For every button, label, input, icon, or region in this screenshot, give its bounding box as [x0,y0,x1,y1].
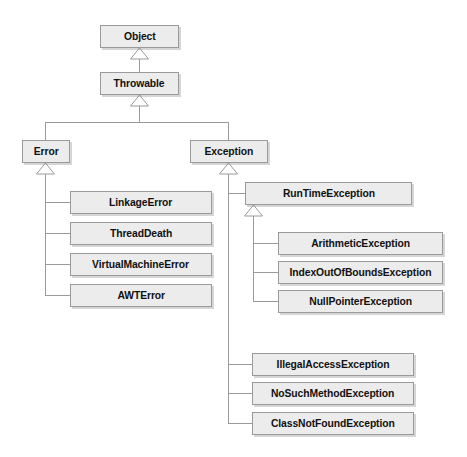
node-virtual-machine-error[interactable]: VirtualMachineError [70,253,212,276]
node-index-out-of-bounds-exception[interactable]: IndexOutOfBoundsException [278,261,443,284]
class-hierarchy-diagram: Object Throwable Error Exception Linkage… [0,0,467,457]
node-exception[interactable]: Exception [190,140,268,163]
node-object[interactable]: Object [100,25,179,48]
node-linkage-error[interactable]: LinkageError [70,191,212,214]
arrowhead-error [37,163,55,174]
node-awt-error[interactable]: AWTError [70,284,212,307]
node-arithmetic-exception[interactable]: ArithmeticException [278,232,443,255]
node-label: IllegalAccessException [277,359,390,370]
node-label: NoSuchMethodException [271,388,394,399]
node-label: RunTimeException [283,188,375,199]
node-label: Object [124,31,156,42]
node-label: AWTError [117,290,165,301]
node-label: Exception [205,146,254,157]
node-runtime-exception[interactable]: RunTimeException [245,182,412,205]
arrowhead-throwable [131,95,149,106]
node-label: NullPointerException [309,296,412,307]
arrowhead-runtime-exception [245,205,263,216]
node-no-such-method-exception[interactable]: NoSuchMethodException [252,382,414,405]
node-illegal-access-exception[interactable]: IllegalAccessException [252,353,414,376]
node-null-pointer-exception[interactable]: NullPointerException [278,290,443,313]
arrowhead-object [131,48,149,59]
node-throwable[interactable]: Throwable [100,72,179,95]
node-class-not-found-exception[interactable]: ClassNotFoundException [252,412,414,435]
node-label: VirtualMachineError [93,259,190,270]
node-label: ClassNotFoundException [271,418,395,429]
node-label: ThreadDeath [110,228,172,239]
node-label: Throwable [114,78,165,89]
node-label: LinkageError [109,197,172,208]
node-label: ArithmeticException [311,238,410,249]
node-error[interactable]: Error [22,140,70,163]
arrowhead-exception [220,163,238,174]
node-thread-death[interactable]: ThreadDeath [70,222,212,245]
node-label: Error [34,146,59,157]
node-label: IndexOutOfBoundsException [290,267,432,278]
